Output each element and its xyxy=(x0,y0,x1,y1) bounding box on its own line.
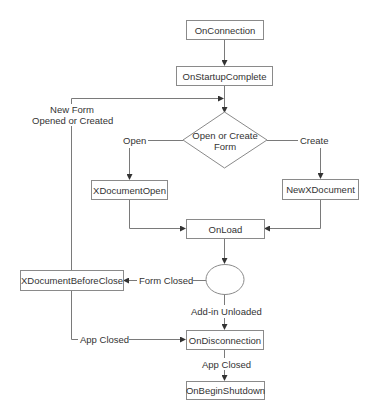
label-create: Create xyxy=(300,135,329,146)
decision-label-line1: Open or Create xyxy=(189,130,261,141)
node-on-connection: OnConnection xyxy=(186,20,264,40)
label-new-form-line2: Opened or Created xyxy=(32,115,112,126)
label-addin-unloaded: Add-in Unloaded xyxy=(191,306,262,317)
node-on-load: OnLoad xyxy=(186,219,265,239)
label-app-closed-left: App Closed xyxy=(80,334,129,345)
label-new-form-opened: New Form Opened or Created xyxy=(32,104,112,126)
decision-label: Open or Create Form xyxy=(189,130,261,152)
decision-label-line2: Form xyxy=(189,141,261,152)
node-on-begin-shutdown: OnBeginShutdown xyxy=(186,381,265,400)
state-ellipse xyxy=(206,265,244,295)
node-on-disconnection: OnDisconnection xyxy=(186,330,264,350)
node-new-xdocument: NewXDocument xyxy=(282,179,359,200)
edge-newxdoc-onload xyxy=(265,199,321,229)
node-xdocument-open: XDocumentOpen xyxy=(91,180,168,200)
node-xdocument-before-close: XDocumentBeforeClose xyxy=(20,270,124,291)
flowchart-canvas xyxy=(0,0,378,414)
edge-app-closed-left xyxy=(72,290,79,340)
edge-xdocopen-onload xyxy=(130,199,186,229)
label-open: Open xyxy=(123,135,146,146)
label-new-form-line1: New Form xyxy=(32,104,112,115)
label-form-closed: Form Closed xyxy=(139,275,193,286)
label-app-closed-bottom: App Closed xyxy=(202,359,251,370)
node-on-startup-complete: OnStartupComplete xyxy=(176,66,273,86)
